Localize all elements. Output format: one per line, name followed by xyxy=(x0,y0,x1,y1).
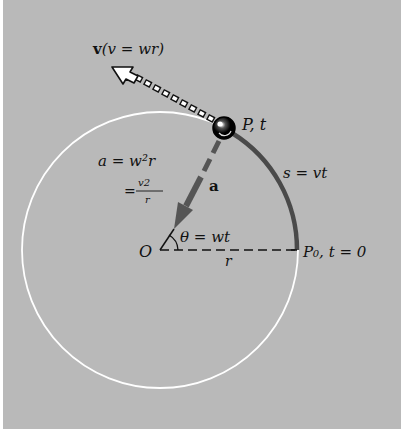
point-p-label: P, t xyxy=(241,115,267,134)
circular-motion-diagram: v(v = wr) P, t s = vt a a = w²r = v2 r θ… xyxy=(0,0,407,442)
start-point-label: P₀, t = 0 xyxy=(302,243,367,261)
angle-ray xyxy=(160,229,174,250)
origin-label: O xyxy=(139,242,152,261)
velocity-label: v(v = wr) xyxy=(92,40,164,58)
particle-ball-icon xyxy=(213,117,235,139)
angle-arc-icon xyxy=(169,235,178,250)
angle-label: θ = wt xyxy=(180,228,231,246)
accel-formula-denominator: r xyxy=(145,194,151,205)
arc-length-path xyxy=(232,133,297,250)
velocity-arrowhead-icon xyxy=(112,67,138,84)
velocity-arrow xyxy=(112,67,215,122)
arc-length-label: s = vt xyxy=(283,164,328,182)
accel-formula-numerator: v2 xyxy=(138,177,150,188)
accel-vector-label: a xyxy=(209,177,219,195)
accel-formula-equals: = xyxy=(124,183,136,199)
radius-label: r xyxy=(225,253,233,269)
accel-formula-line1: a = w²r xyxy=(98,152,156,170)
